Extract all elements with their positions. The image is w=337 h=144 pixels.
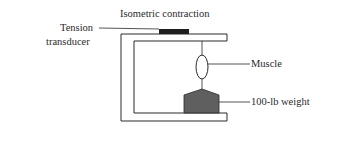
muscle-label: Muscle [251,58,282,70]
weight-label: 100-lb weight [251,96,310,108]
diagram-canvas [0,0,337,144]
transducer-label-line1: Tension [60,22,93,34]
muscle-shape [196,55,208,79]
transducer-label-line2: transducer [46,36,90,48]
weight-block [184,89,219,113]
transducer-leader-line [99,28,159,29]
diagram-title: Isometric contraction [120,8,210,20]
tension-transducer [159,29,189,34]
